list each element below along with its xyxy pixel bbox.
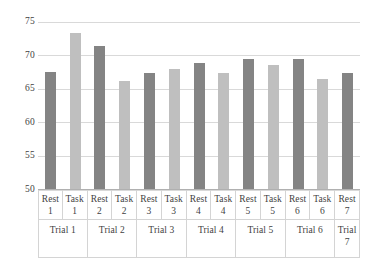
- axis-group-label: Trial 1: [38, 220, 88, 258]
- axis-group-label: Trial 4: [187, 220, 237, 258]
- bar-task-3: [169, 69, 180, 189]
- condition-index: 5: [246, 205, 251, 217]
- axis-label-task-4: Task4: [211, 190, 236, 220]
- axis-label-task-3: Task3: [162, 190, 187, 220]
- bar-task-1: [70, 33, 81, 189]
- bar-rest-1: [45, 72, 56, 189]
- condition-index: 4: [196, 205, 201, 217]
- condition-label: Task: [214, 193, 232, 205]
- condition-label: Rest: [140, 193, 157, 205]
- bar-rest-5: [243, 59, 254, 189]
- condition-index: 6: [320, 205, 325, 217]
- condition-index: 6: [295, 205, 300, 217]
- category-axis: Rest1Task1Rest2Task2Rest3Task3Rest4Task4…: [38, 190, 360, 262]
- condition-label: Task: [115, 193, 133, 205]
- axis-label-task-1: Task1: [63, 190, 88, 220]
- bar-rest-6: [293, 59, 304, 189]
- category-row-trials: Trial 1Trial 2Trial 3Trial 4Trial 5Trial…: [38, 220, 360, 258]
- condition-label: Task: [66, 193, 84, 205]
- y-tick-label: 50: [9, 185, 35, 195]
- axis-label-task-2: Task2: [112, 190, 137, 220]
- axis-label-rest-6: Rest6: [286, 190, 311, 220]
- axis-label-rest-2: Rest2: [88, 190, 113, 220]
- axis-label-rest-7: Rest7: [335, 190, 360, 220]
- bar-rest-3: [144, 73, 155, 189]
- condition-index: 2: [97, 205, 102, 217]
- bar-task-6: [317, 79, 328, 189]
- condition-index: 2: [122, 205, 127, 217]
- axis-label-rest-4: Rest4: [187, 190, 212, 220]
- condition-index: 1: [48, 205, 53, 217]
- y-tick-label: 65: [9, 84, 35, 94]
- y-tick-label: 55: [9, 151, 35, 161]
- condition-label: Rest: [91, 193, 108, 205]
- axis-group-label: Trial 3: [137, 220, 187, 258]
- condition-label: Task: [165, 193, 183, 205]
- axis-group-label: Trial 6: [286, 220, 336, 258]
- condition-label: Rest: [239, 193, 256, 205]
- axis-label-rest-3: Rest3: [137, 190, 162, 220]
- bar-chart: Rest1Task1Rest2Task2Rest3Task3Rest4Task4…: [0, 0, 369, 266]
- bar-rest-2: [94, 46, 105, 189]
- bar-task-5: [268, 65, 279, 189]
- bar-rest-4: [194, 63, 205, 189]
- condition-index: 4: [221, 205, 226, 217]
- condition-label: Rest: [42, 193, 59, 205]
- axis-group-label: Trial 2: [88, 220, 138, 258]
- y-tick-label: 70: [9, 51, 35, 61]
- y-tick-label: 75: [9, 17, 35, 27]
- condition-index: 3: [171, 205, 176, 217]
- axis-group-label: Trial 5: [236, 220, 286, 258]
- bar-task-4: [218, 73, 229, 189]
- axis-label-rest-1: Rest1: [38, 190, 63, 220]
- condition-index: 3: [147, 205, 152, 217]
- condition-label: Task: [313, 193, 331, 205]
- bar-rest-7: [342, 73, 353, 189]
- bars-layer: [38, 22, 360, 190]
- condition-label: Task: [264, 193, 282, 205]
- y-tick-label: 60: [9, 118, 35, 128]
- category-row-conditions: Rest1Task1Rest2Task2Rest3Task3Rest4Task4…: [38, 190, 360, 220]
- axis-label-task-6: Task6: [310, 190, 335, 220]
- condition-label: Rest: [338, 193, 355, 205]
- bar-task-2: [119, 81, 130, 189]
- condition-index: 5: [270, 205, 275, 217]
- condition-index: 7: [345, 205, 350, 217]
- condition-index: 1: [72, 205, 77, 217]
- axis-label-task-5: Task5: [261, 190, 286, 220]
- condition-label: Rest: [289, 193, 306, 205]
- axis-group-label: Trial 7: [335, 220, 360, 258]
- plot-area: [38, 22, 360, 190]
- axis-label-rest-5: Rest5: [236, 190, 261, 220]
- condition-label: Rest: [190, 193, 207, 205]
